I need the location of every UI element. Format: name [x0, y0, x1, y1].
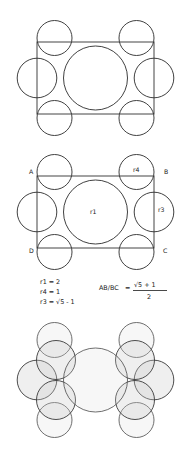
equation-ratio-numerator: √5 + 1	[134, 281, 156, 289]
figure2-canvas: A B C D r1 r3 r4	[0, 152, 191, 270]
figure2-circle-bottom-left	[37, 235, 72, 270]
label-vertex-a: A	[29, 168, 34, 175]
figure1-circle-center	[64, 46, 128, 110]
figure1-circle-bottom-right	[119, 101, 154, 136]
figure1-rectangle	[37, 42, 154, 114]
label-radius-r1: r1	[90, 208, 97, 215]
label-radius-r3: r3	[158, 206, 165, 213]
label-vertex-b: B	[164, 168, 168, 175]
equation-ratio-lhs: AB/BC	[99, 284, 119, 292]
equation-r4: r4 = 1	[40, 288, 60, 296]
figure1-circle-bottom-left	[37, 101, 72, 136]
figure2-circle-top-left	[37, 155, 72, 190]
equations-canvas: r1 = 2 r4 = 1 r3 = √5 - 1 AB/BC = √5 + 1…	[0, 274, 191, 312]
figure1-canvas	[0, 14, 191, 144]
figure-circle-packing-labeled: A B C D r1 r3 r4	[0, 152, 191, 270]
figure-circle-packing-unlabeled	[0, 14, 191, 144]
figure1-circle-top-right	[119, 21, 154, 56]
label-radius-r4: r4	[133, 166, 140, 173]
equation-r1: r1 = 2	[40, 278, 60, 286]
figure-circle-packing-shaded	[0, 312, 191, 457]
equations-block: r1 = 2 r4 = 1 r3 = √5 - 1 AB/BC = √5 + 1…	[0, 274, 191, 312]
figure3-circle-center	[64, 348, 128, 412]
equation-ratio-denominator: 2	[147, 293, 151, 301]
equation-ratio-equals: =	[125, 284, 130, 292]
figure2-circle-bottom-right	[119, 235, 154, 270]
figure3-canvas	[0, 312, 191, 457]
figure1-circle-top-left	[37, 21, 72, 56]
equation-r3: r3 = √5 - 1	[40, 298, 75, 306]
diagram-page: A B C D r1 r3 r4 r1 = 2 r4 = 1 r3 = √5 -…	[0, 0, 191, 457]
label-vertex-d: D	[29, 247, 34, 254]
label-vertex-c: C	[163, 247, 167, 254]
